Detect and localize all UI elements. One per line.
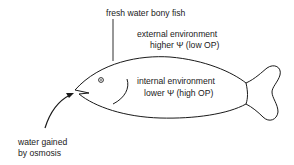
fish-title-label: fresh water bony fish: [106, 8, 185, 19]
fish-pupil: [100, 79, 102, 81]
fish-tail: [246, 66, 280, 120]
internal-water-potential-label: lower Ψ (high OP): [144, 88, 213, 99]
by-osmosis-label: by osmosis: [18, 148, 61, 159]
water-gained-label: water gained: [18, 137, 67, 148]
fish-gill: [113, 79, 128, 104]
internal-environment-label: internal environment: [137, 76, 215, 87]
external-water-potential-label: higher Ψ (low OP): [150, 40, 219, 51]
fish-mouth: [75, 90, 89, 94]
external-environment-label: external environment: [137, 29, 217, 40]
osmosis-arrow-head: [66, 93, 74, 98]
osmosis-arrow-shaft: [45, 95, 70, 128]
